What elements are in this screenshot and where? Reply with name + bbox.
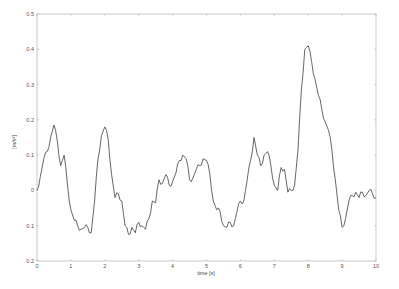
y-tick-label: 0.2 [26, 258, 34, 264]
y-tick-label: 0 [31, 187, 34, 193]
y-tick-label: 0.1 [26, 152, 34, 158]
x-tick-label: 8 [307, 263, 310, 269]
x-tick-label: 1 [69, 263, 72, 269]
y-tick-label: 0.1 [26, 223, 34, 229]
x-tick-label: 10 [373, 263, 379, 269]
y-tick-label: 0.5 [26, 11, 34, 17]
x-tick-label: 5 [205, 263, 208, 269]
y-tick-label: 0.3 [26, 82, 34, 88]
x-tick-label: 9 [341, 263, 344, 269]
x-tick-label: 6 [239, 263, 242, 269]
y-tick-label: 0.4 [26, 46, 34, 52]
line-chart: 0.50.40.30.20.100.10.2 012345678910 time… [0, 0, 399, 289]
acceleration-series-line [37, 46, 376, 235]
x-tick-label: 4 [171, 263, 174, 269]
y-tick-label: 0.2 [26, 117, 34, 123]
x-axis-ticks: 012345678910 [35, 14, 379, 269]
x-tick-label: 7 [273, 263, 276, 269]
plot-frame [37, 14, 376, 261]
x-tick-label: 2 [103, 263, 106, 269]
y-axis-ticks: 0.50.40.30.20.100.10.2 [26, 11, 376, 264]
x-tick-label: 0 [35, 263, 38, 269]
x-tick-label: 3 [137, 263, 140, 269]
x-axis-label: time [s] [197, 270, 215, 276]
y-axis-label: [m/s²] [11, 135, 17, 149]
